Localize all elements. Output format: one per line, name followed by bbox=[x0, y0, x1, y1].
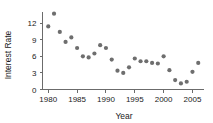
y-axis-title: Interest Rate bbox=[3, 30, 13, 79]
data-point bbox=[150, 61, 154, 65]
data-point bbox=[162, 54, 166, 58]
x-tick-label: 1980 bbox=[39, 95, 57, 104]
data-point bbox=[98, 43, 102, 47]
data-point bbox=[156, 61, 160, 65]
data-point bbox=[144, 59, 148, 63]
data-point bbox=[121, 71, 125, 75]
interest-rate-scatter-chart: 036912 198019851990199520002005 Year Int… bbox=[0, 0, 213, 123]
y-tick-label: 6 bbox=[32, 52, 37, 61]
y-tick-label: 9 bbox=[32, 36, 37, 45]
x-tick-label: 1995 bbox=[126, 95, 144, 104]
data-point bbox=[133, 56, 137, 60]
x-tick-label: 2000 bbox=[155, 95, 173, 104]
data-point bbox=[75, 46, 79, 50]
plot-area: 036912 198019851990199520002005 Year Int… bbox=[0, 0, 213, 123]
data-point bbox=[173, 78, 177, 82]
data-point bbox=[185, 80, 189, 84]
data-point bbox=[179, 81, 183, 85]
data-point bbox=[104, 46, 108, 50]
data-point bbox=[81, 54, 85, 58]
data-point bbox=[87, 55, 91, 59]
x-tick-label: 1990 bbox=[97, 95, 115, 104]
y-tick-label: 0 bbox=[32, 86, 37, 95]
data-point bbox=[110, 58, 114, 62]
data-point bbox=[138, 59, 142, 63]
data-point bbox=[167, 68, 171, 72]
x-axis-title: Year bbox=[115, 111, 132, 121]
data-point bbox=[127, 65, 131, 69]
data-point bbox=[58, 30, 62, 34]
x-tick-label: 2005 bbox=[184, 95, 202, 104]
y-tick-label: 12 bbox=[28, 19, 37, 28]
data-point bbox=[69, 35, 73, 39]
y-axis-tick-labels: 036912 bbox=[28, 19, 37, 94]
x-axis-tick-labels: 198019851990199520002005 bbox=[39, 95, 202, 104]
data-point bbox=[52, 12, 56, 16]
data-point bbox=[63, 40, 67, 44]
data-points bbox=[46, 12, 200, 86]
y-tick-label: 3 bbox=[32, 69, 37, 78]
data-point bbox=[190, 70, 194, 74]
data-point bbox=[46, 24, 50, 28]
data-point bbox=[115, 69, 119, 73]
data-point bbox=[196, 61, 200, 65]
x-tick-label: 1985 bbox=[68, 95, 86, 104]
data-point bbox=[92, 51, 96, 55]
